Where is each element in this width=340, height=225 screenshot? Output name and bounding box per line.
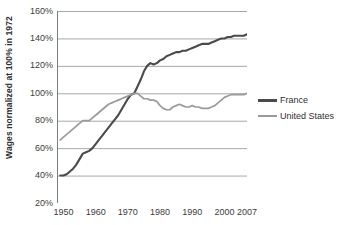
x-tick-label: 2007	[229, 208, 265, 217]
data-series	[60, 34, 247, 175]
plot-svg	[57, 11, 247, 203]
legend-item-united-states[interactable]: United States	[258, 108, 340, 124]
legend-item-france[interactable]: France	[258, 92, 340, 108]
y-tick-label: 40%	[7, 171, 53, 180]
y-tick-label: 160%	[7, 7, 53, 16]
y-tick-label: 120%	[7, 61, 53, 70]
legend-swatch-icon	[258, 115, 277, 118]
x-tick-label: 1980	[142, 208, 178, 217]
plot-area	[57, 11, 247, 203]
legend-item-label: France	[280, 95, 308, 105]
line-chart: Wages normalized at 100% in 1972 160%140…	[0, 0, 340, 225]
series-line-france	[60, 34, 247, 175]
y-tick-label: 60%	[7, 144, 53, 153]
x-tick-label: 1960	[78, 208, 114, 217]
axis-lines	[57, 11, 58, 203]
y-tick-label: 140%	[7, 34, 53, 43]
chart-legend: FranceUnited States	[258, 92, 340, 124]
y-axis-title: Wages normalized at 100% in 1972	[2, 0, 16, 200]
x-tick-label: 1990	[174, 208, 210, 217]
legend-swatch-icon	[258, 99, 277, 102]
y-tick-label: 80%	[7, 116, 53, 125]
y-tick-label: 20%	[7, 199, 53, 208]
x-tick-label: 1970	[110, 208, 146, 217]
series-line-united-states	[60, 93, 247, 140]
y-tick-label: 100%	[7, 89, 53, 98]
legend-item-label: United States	[280, 111, 334, 121]
x-tick-label: 1950	[45, 208, 81, 217]
